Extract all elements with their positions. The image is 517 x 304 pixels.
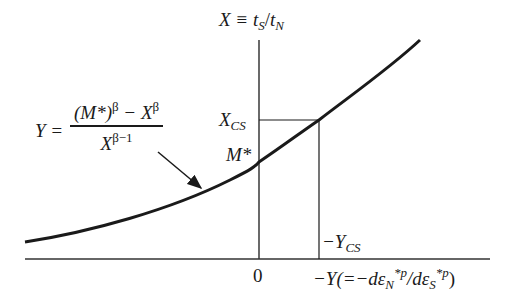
y-axis-label: X ≡ tS/tN (219, 10, 284, 32)
x-axis-label-sup2: *p (436, 265, 449, 280)
numerator-term-b: − X (119, 102, 153, 123)
equation-denominator: Xβ−1 (70, 127, 163, 153)
neg-y-cs-label-base: −Y (322, 231, 345, 252)
x-axis-label-prefix: −Y(=−dε (313, 268, 385, 289)
neg-y-cs-label-sub: CS (345, 240, 360, 255)
x-axis-label-sub1: N (385, 277, 394, 292)
numerator-term-a-sup: β (112, 99, 119, 114)
x-cs-label-base: X (219, 109, 231, 130)
y-axis-label-prefix: X ≡ (219, 9, 253, 30)
y-axis-label-t2-sub: N (275, 18, 284, 33)
denominator-base: X (101, 133, 113, 154)
numerator-term-b-sup: β (153, 99, 160, 114)
equation-pointer-arrow (158, 152, 201, 188)
origin-label: 0 (253, 266, 263, 285)
equation-numerator: (M*)β − Xβ (70, 100, 163, 125)
x-axis-label: −Y(=−dεN*p/dεS*p) (313, 266, 455, 291)
x-cs-label: XCS (219, 110, 246, 132)
x-axis-label-mid: /dε (407, 268, 429, 289)
equation-lhs: Y = (35, 121, 63, 140)
x-axis-label-suffix: ) (449, 268, 455, 289)
x-cs-label-sub: CS (231, 118, 246, 133)
numerator-term-a: (M*) (74, 102, 112, 123)
m-star-label: M* (226, 145, 251, 164)
equation-fraction: (M*)β − Xβ Xβ−1 (70, 100, 163, 153)
denominator-sup: β−1 (112, 130, 132, 145)
x-axis-label-sup1: *p (394, 265, 407, 280)
neg-y-cs-label: −YCS (322, 232, 361, 254)
